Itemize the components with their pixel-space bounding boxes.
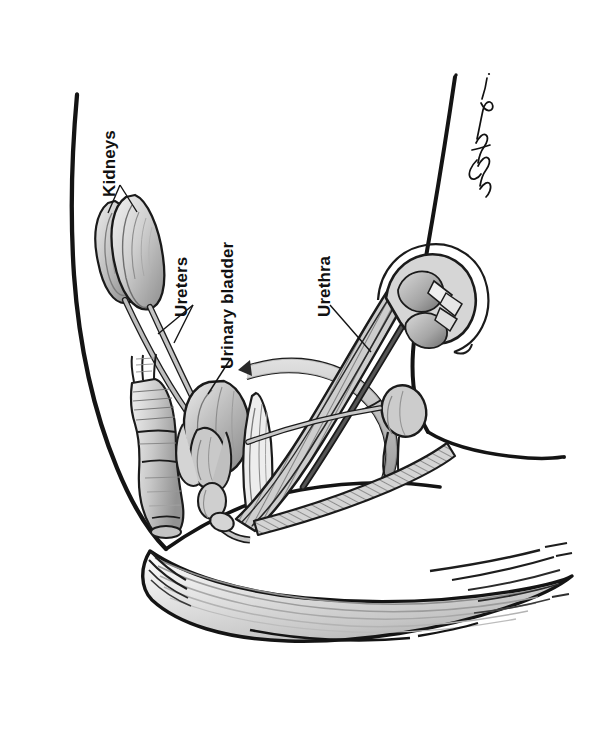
label-urethra: Urethra bbox=[316, 256, 333, 317]
label-kidneys: Kidneys bbox=[101, 130, 118, 197]
anatomy-drawing bbox=[0, 0, 598, 739]
label-urinary-bladder: Urinary bladder bbox=[219, 242, 236, 369]
label-ureters: Ureters bbox=[173, 257, 190, 317]
illustration-canvas bbox=[0, 0, 598, 739]
screenshot-root: Kidneys Ureters Urinary bladder Urethra bbox=[0, 0, 598, 739]
